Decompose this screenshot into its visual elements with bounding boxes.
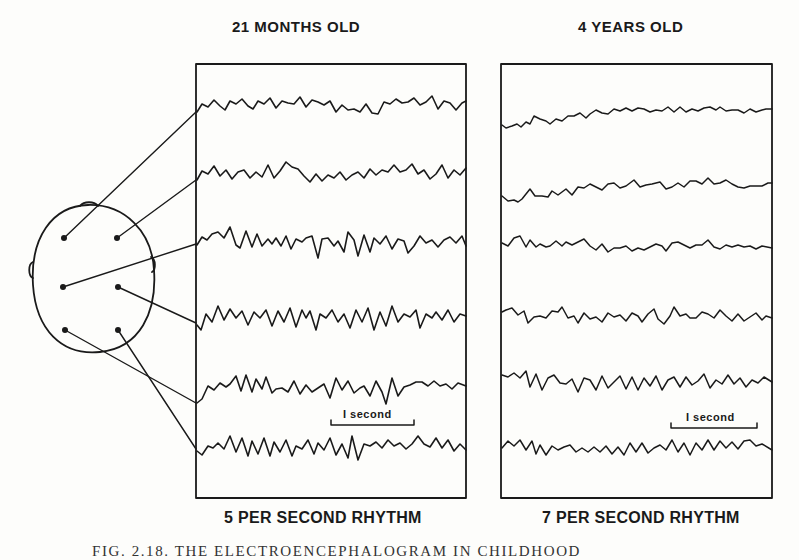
electrode-icon bbox=[115, 327, 121, 333]
panel-frame-4-years bbox=[501, 64, 772, 498]
electrode-icon bbox=[60, 284, 66, 290]
electrode-leader-lines bbox=[63, 112, 196, 449]
eeg-traces-4-years bbox=[502, 107, 772, 455]
electrode-dots bbox=[60, 235, 121, 333]
scale-bar-4-years bbox=[671, 423, 757, 428]
scale-bar-label-21-months: I second bbox=[343, 408, 392, 420]
electrode-icon bbox=[115, 284, 121, 290]
panel-frame-21-months bbox=[196, 64, 466, 498]
rhythm-label-21-months: 5 PER SECOND RHYTHM bbox=[224, 509, 422, 527]
scale-bar-label-4-years: I second bbox=[686, 411, 735, 423]
eeg-traces-21-months bbox=[197, 96, 466, 460]
rhythm-label-4-years: 7 PER SECOND RHYTHM bbox=[542, 509, 740, 527]
scale-bar-21-months bbox=[331, 420, 414, 425]
electrode-icon bbox=[62, 327, 68, 333]
figure-caption: FIG. 2.18. THE ELECTROENCEPHALOGRAM IN C… bbox=[92, 543, 581, 560]
electrode-icon bbox=[114, 235, 120, 241]
electrode-icon bbox=[61, 235, 67, 241]
